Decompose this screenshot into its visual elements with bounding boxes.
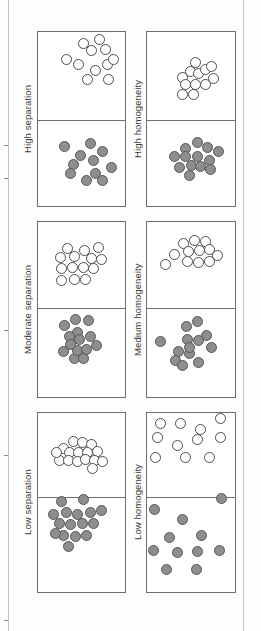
filled-circle-marker <box>85 507 96 518</box>
filled-circle-marker <box>88 155 99 166</box>
open-circle-marker <box>169 249 180 260</box>
open-circle-marker <box>204 256 215 267</box>
page-tick-mark <box>4 455 8 456</box>
panel-label-high-separation: High separation <box>20 31 34 207</box>
filled-circle-marker <box>85 138 96 149</box>
open-circle-marker <box>189 235 200 246</box>
open-circle-marker <box>87 463 98 474</box>
filled-circle-marker <box>184 342 195 353</box>
panel-divider-medium-homogeneity <box>146 308 236 309</box>
panel-divider-moderate-separation <box>37 308 126 309</box>
filled-circle-marker <box>192 316 203 327</box>
filled-circle-marker <box>61 507 72 518</box>
open-circle-marker <box>192 434 203 445</box>
open-circle-marker <box>90 65 101 76</box>
panel-divider-high-homogeneity <box>146 120 236 121</box>
open-circle-marker <box>56 263 67 274</box>
panel-label-low-separation: Low separation <box>20 412 34 593</box>
filled-circle-marker <box>148 545 159 556</box>
filled-circle-marker <box>149 504 160 515</box>
filled-circle-marker <box>193 357 204 368</box>
panel-label-high-homogeneity: High homogeneity <box>130 31 144 207</box>
open-circle-marker <box>194 245 205 256</box>
open-circle-marker <box>56 275 67 286</box>
filled-circle-marker <box>59 320 70 331</box>
panel-label-medium-homogeneity: Medium homogeneity <box>130 221 144 398</box>
filled-circle-marker <box>213 146 224 157</box>
page-tick-mark <box>4 145 8 146</box>
open-circle-marker <box>86 45 97 56</box>
open-circle-marker <box>86 253 97 264</box>
filled-circle-marker <box>181 321 192 332</box>
filled-circle-marker <box>59 141 70 152</box>
open-circle-marker <box>55 252 66 263</box>
filled-circle-marker <box>192 546 203 557</box>
open-circle-marker <box>177 89 188 100</box>
page-tick-mark <box>4 330 8 331</box>
filled-circle-marker <box>88 518 99 529</box>
filled-circle-marker <box>191 564 202 575</box>
filled-circle-marker <box>177 514 188 525</box>
open-circle-marker <box>88 263 99 274</box>
filled-circle-marker <box>96 505 107 516</box>
open-circle-marker <box>61 54 72 65</box>
page-tick-mark <box>4 620 8 621</box>
open-circle-marker <box>183 246 194 257</box>
panel-label-low-homogeneity: Low homogeneity <box>130 412 144 593</box>
open-circle-marker <box>69 251 80 262</box>
open-circle-marker <box>188 89 199 100</box>
page-right-rule <box>243 0 244 631</box>
panel-divider-high-separation <box>37 120 126 121</box>
filled-circle-marker <box>184 170 195 181</box>
open-circle-marker <box>69 274 80 285</box>
panel-label-moderate-separation: Moderate separation <box>20 221 34 398</box>
page-left-rule <box>8 0 9 631</box>
figure-canvas: High separation High homogeneity Moderat… <box>0 0 261 631</box>
filled-circle-marker <box>164 532 175 543</box>
filled-circle-marker <box>177 360 188 371</box>
open-circle-marker <box>195 424 206 435</box>
filled-circle-marker <box>70 314 81 325</box>
filled-circle-marker <box>70 531 81 542</box>
page-tick-mark <box>4 178 8 179</box>
open-circle-marker <box>155 418 166 429</box>
filled-circle-marker <box>202 142 213 153</box>
open-circle-marker <box>180 452 191 463</box>
filled-circle-marker <box>155 336 166 347</box>
open-circle-marker <box>108 54 119 65</box>
open-circle-marker <box>193 257 204 268</box>
open-circle-marker <box>190 57 201 68</box>
open-circle-marker <box>172 440 183 451</box>
filled-circle-marker <box>63 541 74 552</box>
open-circle-marker <box>175 418 186 429</box>
open-circle-marker <box>200 79 211 90</box>
